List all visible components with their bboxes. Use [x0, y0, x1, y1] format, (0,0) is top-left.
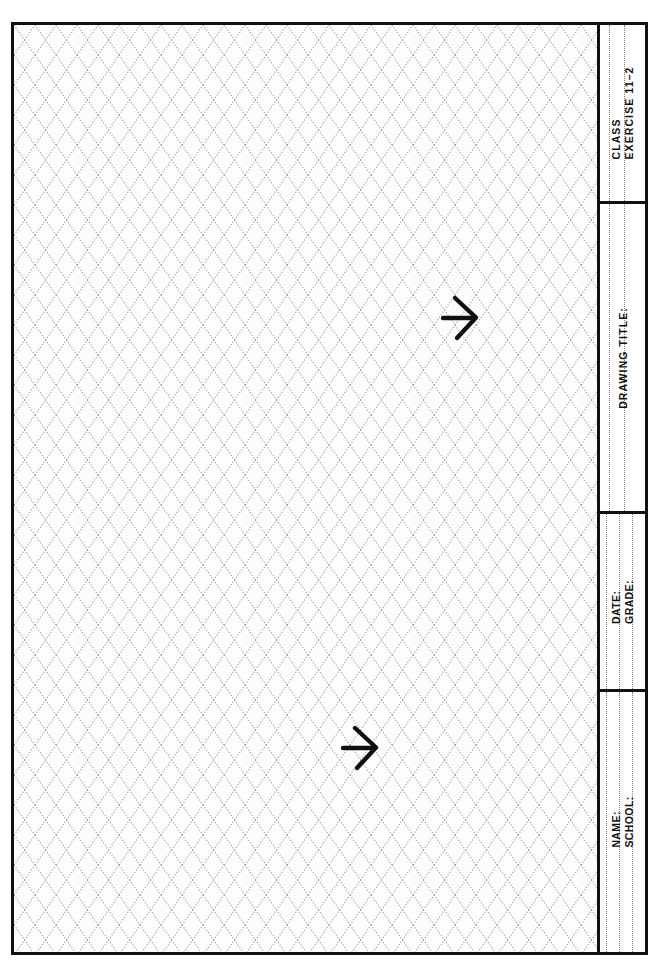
footer-caption [11, 958, 648, 976]
title-block-section-drawing-title[interactable]: DRAWING TITLE: [600, 201, 645, 511]
label-school: SCHOOL: [623, 796, 636, 847]
worksheet-sheet: CLASS EXERCISE 11–2 DRAWING TITLE: [0, 0, 665, 976]
title-block: CLASS EXERCISE 11–2 DRAWING TITLE: [597, 25, 645, 952]
isometric-grid-area [14, 25, 597, 952]
label-date: DATE: [610, 590, 623, 623]
grid-pattern [14, 25, 597, 952]
title-block-section-date-grade[interactable]: DATE: GRADE: [600, 511, 645, 689]
title-block-section-class[interactable]: CLASS EXERCISE 11–2 [600, 25, 645, 201]
label-grade: GRADE: [623, 580, 636, 624]
label-exercise-number: EXERCISE 11–2 [623, 66, 636, 159]
label-drawing-title: DRAWING TITLE: [616, 307, 629, 409]
title-block-section-name-school[interactable]: NAME: SCHOOL: [600, 689, 645, 952]
label-class: CLASS [610, 118, 623, 159]
drawing-frame: CLASS EXERCISE 11–2 DRAWING TITLE: [11, 22, 648, 955]
label-name: NAME: [610, 811, 623, 847]
